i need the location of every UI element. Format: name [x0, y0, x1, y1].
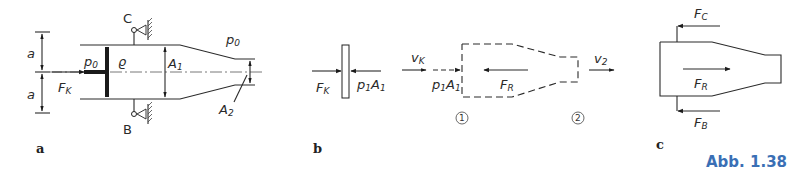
- dimension-a: a a: [27, 32, 50, 113]
- A1-label: A1: [167, 56, 183, 72]
- section-2-label: 2: [575, 113, 581, 123]
- panel-a-label: a: [36, 141, 45, 156]
- section-1-label: 1: [459, 113, 465, 123]
- figure-canvas: a a C: [0, 0, 802, 181]
- support-B: B: [123, 99, 152, 137]
- rho-label: ϱ: [118, 54, 127, 69]
- dim-a-bottom: a: [27, 87, 35, 102]
- support-C-label: C: [123, 11, 132, 26]
- panel-c: FC FR FB c: [656, 6, 781, 152]
- vK-label: vK: [411, 50, 426, 66]
- A2-leader: [234, 75, 247, 102]
- FR-label-c: FR: [694, 76, 708, 92]
- FK-label-b: FK: [316, 80, 330, 96]
- p1A1-label-right: p1A1: [431, 77, 461, 93]
- FC-label: FC: [694, 6, 708, 22]
- p1A1-label-left: p1A1: [356, 77, 386, 93]
- figure-caption: Abb. 1.38: [706, 153, 787, 171]
- panel-b-label: b: [313, 141, 322, 156]
- p0-left-label: p0: [83, 54, 98, 70]
- A2-label: A2: [218, 102, 234, 118]
- FB-label: FB: [694, 115, 708, 131]
- panel-b: FK p1A1 vK p1A1 FR v2 1 2 b: [312, 44, 614, 156]
- panel-c-label: c: [656, 137, 664, 152]
- FR-label-b: FR: [500, 77, 514, 93]
- v2-label: v2: [594, 51, 608, 67]
- panel-a: a a C: [27, 11, 265, 156]
- piston-free-body: [342, 45, 349, 98]
- FK-label: FK: [58, 80, 72, 96]
- p0-right-label: p0: [225, 32, 240, 48]
- support-C: C: [123, 11, 152, 45]
- support-B-label: B: [123, 122, 132, 137]
- dim-a-top: a: [27, 46, 35, 61]
